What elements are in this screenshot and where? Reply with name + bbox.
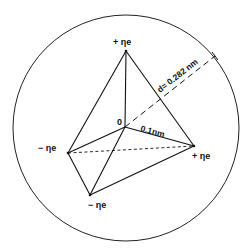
vertex-top — [125, 50, 128, 53]
enclosing-sphere — [13, 15, 239, 241]
edge-left-right-hidden — [68, 146, 194, 153]
label-right-charge: + ηe — [192, 151, 210, 161]
vertex-left — [67, 152, 70, 155]
label-diameter: d= 0.282 nm — [155, 56, 200, 94]
vertex-right — [193, 145, 196, 148]
label-top-charge: + ηe — [113, 37, 131, 47]
bond-top — [125, 51, 126, 127]
vertex-bottom — [89, 194, 92, 197]
bond-left — [68, 127, 125, 153]
bond-bottom — [90, 127, 125, 195]
label-bond-length: 0.1nm — [139, 123, 166, 139]
edge-left-bottom — [68, 153, 90, 195]
tetrahedron-diagram: + ηe − ηe + ηe − ηe 0 0.1nm d= 0.282 nm — [0, 0, 248, 249]
label-left-charge: − ηe — [38, 143, 56, 153]
label-bottom-charge: − ηe — [88, 200, 106, 210]
edge-bottom-right — [90, 146, 194, 195]
label-center: 0 — [117, 117, 122, 127]
edge-top-left — [68, 51, 126, 153]
diameter-line — [125, 56, 215, 127]
